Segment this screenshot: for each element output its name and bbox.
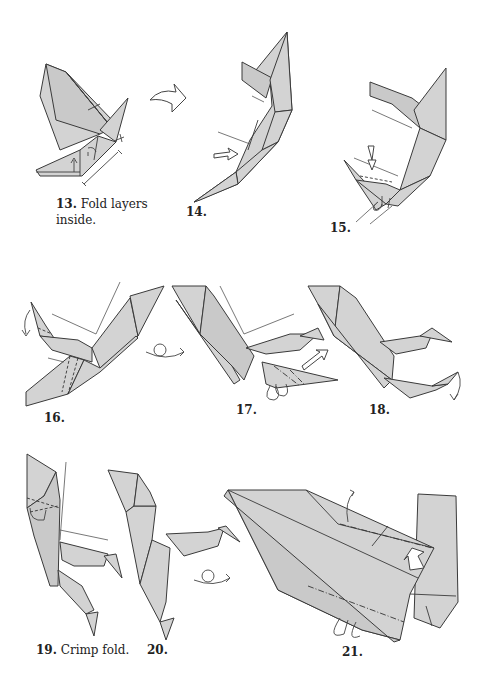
step-17-number: 17. [236,403,257,417]
step-18-number: 18. [369,403,390,417]
step-17-label: 17. [236,402,257,418]
step-17-figure [172,286,338,400]
step-20-number: 20. [147,643,168,657]
push-arrow-14 [214,148,238,160]
step-15-figure [344,68,446,224]
step-15-label: 15. [330,220,351,236]
step-14-label: 14. [186,204,207,220]
step-15-number: 15. [330,221,351,235]
step-13-number: 13. [56,197,77,211]
step-21-number: 21. [342,645,363,659]
step-19-number: 19. [36,643,57,657]
step-13-caption: Fold layers [81,197,148,211]
step-13-caption-line2: inside. [56,213,96,227]
step-14-figure [194,32,292,202]
step-21-figure [224,490,458,642]
step-18-label: 18. [369,402,390,418]
step-19-caption: Crimp fold. [61,643,130,657]
step-16-figure [22,282,164,406]
turn-over-arrow-13 [150,84,186,112]
step-13-figure [36,64,128,186]
step-19-figure [27,454,122,636]
push-arrow-17 [302,350,328,370]
origami-diagram-canvas [0,0,481,679]
step-14-number: 14. [186,205,207,219]
step-18-figure [308,286,460,400]
step-16-number: 16. [44,411,65,425]
turn-over-symbol-20 [194,570,230,584]
step-16-label: 16. [44,410,65,426]
step-20-label: 20. [147,642,168,658]
step-13-label: 13. Fold layers inside. [56,196,148,228]
turn-over-symbol-16 [146,344,184,357]
step-19-label: 19. Crimp fold. [36,642,129,658]
step-20-figure [108,470,240,640]
step-21-label: 21. [342,644,363,660]
